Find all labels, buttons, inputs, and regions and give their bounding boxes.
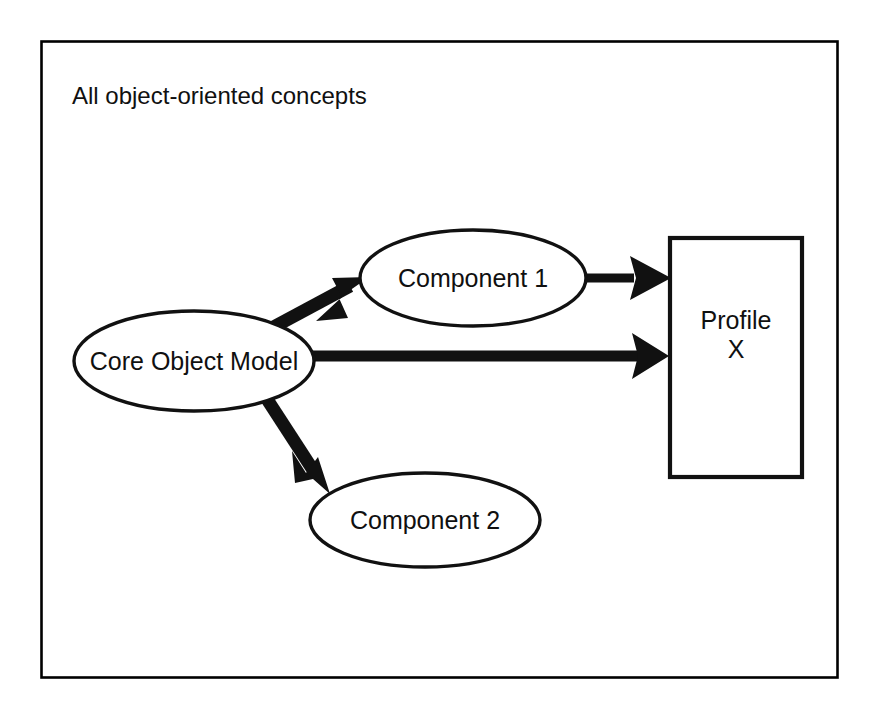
node-component-1[interactable]: Component 1 xyxy=(360,230,586,326)
node-component-2[interactable]: Component 2 xyxy=(310,473,540,567)
diagram-figure: All object-oriented concepts Component 1 xyxy=(0,0,885,716)
node-profile-x-label-line-2: X xyxy=(728,335,745,363)
frame-title-label: All object-oriented concepts xyxy=(72,82,367,109)
diagram-canvas: All object-oriented concepts Component 1 xyxy=(0,0,885,716)
node-core-object-model[interactable]: Core Object Model xyxy=(74,311,314,411)
node-component-2-label: Component 2 xyxy=(350,506,500,534)
node-profile-x[interactable]: Profile X xyxy=(670,238,802,477)
node-profile-x-label-line-1: Profile xyxy=(701,306,772,334)
node-core-object-model-label: Core Object Model xyxy=(90,347,298,375)
node-component-1-label: Component 1 xyxy=(398,264,548,292)
